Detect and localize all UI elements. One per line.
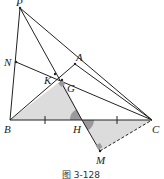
label-a: A	[75, 51, 83, 63]
figure-caption: 图 3-128	[62, 170, 100, 179]
segment-pb	[10, 8, 20, 120]
label-k: K	[43, 74, 52, 86]
label-n: N	[3, 56, 12, 68]
label-h: H	[72, 123, 82, 135]
label-m: M	[95, 154, 106, 166]
geometry-diagram: P N B K A G H C M 图 3-128	[0, 0, 164, 179]
label-c: C	[152, 123, 160, 135]
label-b: B	[4, 123, 11, 135]
label-g: G	[67, 82, 75, 94]
label-p: P	[15, 0, 23, 8]
